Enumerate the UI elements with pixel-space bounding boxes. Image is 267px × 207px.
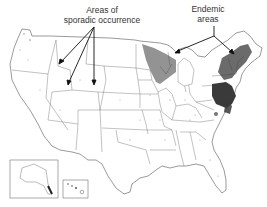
sporadic-label-line1: Areas of [52, 5, 152, 15]
hawaii-inset [63, 180, 88, 198]
sporadic-label-line2: sporadic occurrence [52, 15, 152, 25]
sporadic-occurrence-label: Areas of sporadic occurrence [52, 5, 152, 25]
endemic-label-line2: areas [178, 14, 238, 24]
alaska-inset [10, 160, 58, 198]
endemic-label-line1: Endemic [178, 4, 238, 14]
endemic-areas-label: Endemic areas [178, 4, 238, 24]
us-map [0, 0, 267, 207]
